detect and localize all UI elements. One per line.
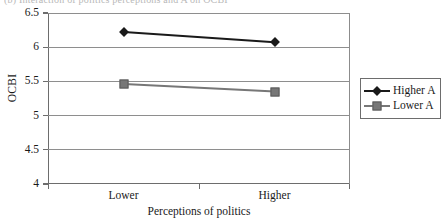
legend-key [364, 84, 390, 97]
y-axis-tick-mark [43, 149, 48, 150]
x-axis-tick-label: Higher [259, 189, 291, 201]
x-axis-tick-mark [199, 184, 200, 189]
gridline [48, 81, 350, 82]
figure-caption-sliver: (b) Interaction of politics perceptions … [4, 0, 244, 5]
y-axis-tick: 5 [43, 115, 48, 116]
square-marker-icon [270, 87, 279, 96]
y-axis-tick: 6.5 [43, 12, 48, 13]
y-axis-tick-label: 5 [33, 110, 39, 122]
x-axis-tick-mark [349, 184, 350, 189]
legend-item[interactable]: Lower A [364, 98, 435, 113]
interaction-plot-figure: (b) Interaction of politics perceptions … [0, 0, 448, 223]
y-axis-tick: 4.5 [43, 149, 48, 150]
y-axis-tick-label: 6 [33, 41, 39, 53]
y-axis-tick-mark [43, 47, 48, 48]
plot-right-edge [349, 13, 350, 184]
y-axis-tick-mark [43, 12, 48, 13]
legend-item[interactable]: Higher A [364, 83, 435, 98]
plot-area [48, 13, 350, 184]
x-axis-tick-mark [48, 184, 49, 189]
x-axis-title: Perceptions of politics [48, 205, 350, 217]
gridline [48, 47, 350, 48]
y-axis-tick-label: 4 [33, 178, 39, 190]
gridline [48, 13, 350, 14]
y-axis-tick: 6 [43, 47, 48, 48]
legend-item-label: Lower A [393, 99, 434, 112]
y-axis-tick-label: 5.5 [25, 76, 39, 88]
legend-key [364, 99, 390, 112]
y-axis-tick-mark [43, 115, 48, 116]
y-axis-tick-label: 4.5 [25, 144, 39, 156]
diamond-marker-icon [372, 86, 382, 96]
square-marker-icon [119, 80, 128, 89]
gridline [48, 115, 350, 116]
legend: Higher ALower A [360, 78, 441, 119]
square-marker-icon [373, 101, 382, 110]
y-axis-title: OCBI [6, 50, 18, 126]
y-axis-tick-mark [43, 81, 48, 82]
gridline [48, 149, 350, 150]
y-axis-tick-label: 6.5 [25, 7, 39, 19]
y-axis-tick: 5.5 [43, 81, 48, 82]
legend-item-label: Higher A [393, 84, 435, 97]
x-axis-tick-label: Lower [108, 189, 138, 201]
